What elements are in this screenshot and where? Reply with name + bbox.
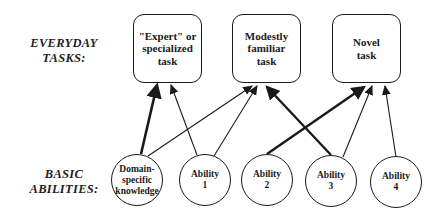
arrow-ability4-to-novel bbox=[385, 86, 396, 157]
ability-domain-knowledge-label: Domain- specific knowledge bbox=[115, 164, 158, 197]
ability-2-node: Ability 2 bbox=[241, 154, 293, 206]
task-novel-label: Novel task bbox=[353, 36, 380, 61]
task-expert-box: "Expert" or specialized task bbox=[133, 14, 202, 83]
task-expert-label: "Expert" or specialized task bbox=[139, 30, 197, 68]
arrow-domain-to-modest bbox=[148, 86, 252, 156]
ability-3-node: Ability 3 bbox=[305, 155, 357, 207]
ability-2-label: Ability 2 bbox=[253, 169, 281, 191]
ability-4-node: Ability 4 bbox=[370, 156, 422, 208]
arrow-ability3-to-modest bbox=[267, 87, 331, 155]
ability-1-label: Ability 1 bbox=[191, 169, 219, 191]
task-modestly-familiar-label: Modestly familiar task bbox=[245, 30, 288, 68]
arrow-ability1-to-expert bbox=[171, 85, 197, 155]
ability-4-label: Ability 4 bbox=[382, 171, 410, 193]
task-modestly-familiar-box: Modestly familiar task bbox=[232, 14, 301, 83]
task-novel-box: Novel task bbox=[332, 14, 401, 83]
arrow-ability3-to-novel bbox=[343, 86, 372, 157]
ability-3-label: Ability 3 bbox=[317, 170, 345, 192]
ability-domain-knowledge-node: Domain- specific knowledge bbox=[111, 154, 163, 206]
arrow-domain-to-expert bbox=[141, 85, 157, 154]
arrow-ability2-to-novel bbox=[267, 87, 364, 154]
ability-1-node: Ability 1 bbox=[179, 154, 231, 206]
